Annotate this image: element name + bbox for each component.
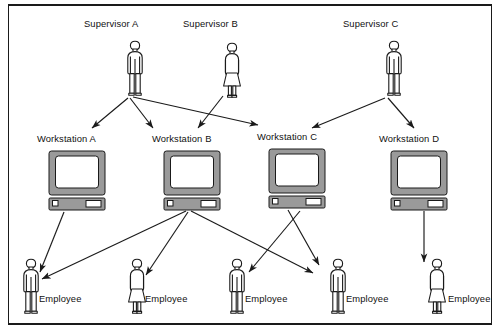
frame-rule-top (8, 4, 492, 6)
supervisor-label-b: Supervisor B (183, 18, 238, 29)
workstation-a[interactable] (48, 150, 108, 216)
workstation-label-c: Workstation C (257, 131, 317, 142)
workstation-label-a: Workstation A (37, 133, 96, 144)
person-female-icon (219, 42, 245, 98)
supervisor-figure-c[interactable] (381, 40, 407, 100)
employee-figure-4[interactable] (325, 258, 351, 318)
workstation-d[interactable] (390, 150, 450, 216)
frame-rule-right (491, 4, 492, 325)
workstation-b[interactable] (163, 150, 223, 216)
person-male-icon (122, 40, 148, 96)
diagram-canvas: Supervisor ASupervisor BSupervisor CWork… (0, 0, 500, 330)
supervisor-label-c: Supervisor C (343, 18, 398, 29)
frame-rule-left (8, 4, 9, 325)
arrow-ws-b-to-emp-1 (42, 211, 186, 279)
arrow-ws-c-to-emp-4 (288, 210, 319, 265)
arrow-ws-c-to-emp-3 (249, 211, 300, 272)
employee-figure-2[interactable] (124, 258, 150, 318)
employee-label-3: Employee (245, 293, 288, 304)
frame-rule-bottom (8, 323, 492, 325)
arrow-sup-c-to-ws-d (388, 98, 414, 128)
supervisor-figure-a[interactable] (122, 40, 148, 100)
arrow-sup-a-to-ws-a (92, 98, 128, 128)
workstation-label-b: Workstation B (152, 133, 211, 144)
employee-label-2: Employee (145, 293, 188, 304)
employee-label-1: Employee (39, 293, 82, 304)
supervisor-figure-b[interactable] (219, 42, 245, 102)
employee-figure-5[interactable] (424, 258, 450, 318)
computer-monitor-icon (390, 150, 450, 212)
computer-monitor-icon (48, 150, 108, 212)
computer-monitor-icon (163, 150, 223, 212)
computer-monitor-icon (268, 148, 328, 210)
arrow-ws-b-to-emp-4 (191, 211, 313, 273)
employee-label-4: Employee (346, 293, 389, 304)
supervisor-label-a: Supervisor A (84, 18, 138, 29)
person-male-icon (18, 258, 44, 314)
employee-figure-1[interactable] (18, 258, 44, 318)
arrow-sup-a-to-ws-b (130, 98, 153, 128)
workstation-c[interactable] (268, 148, 328, 214)
arrow-sup-c-to-ws-c (312, 98, 385, 128)
employee-figure-3[interactable] (224, 258, 250, 318)
workstation-label-d: Workstation D (379, 133, 439, 144)
person-male-icon (381, 40, 407, 96)
arrow-ws-b-to-emp-2 (146, 212, 188, 275)
person-female-icon (124, 258, 150, 314)
person-male-icon (224, 258, 250, 314)
person-female-icon (424, 258, 450, 314)
employee-label-5: Employee (448, 293, 491, 304)
person-male-icon (325, 258, 351, 314)
